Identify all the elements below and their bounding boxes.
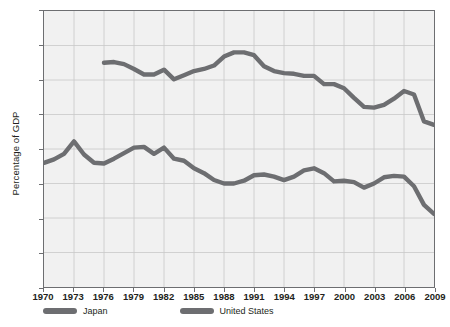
x-tick-mark	[375, 288, 376, 292]
chart-legend: Japan United States	[43, 306, 274, 316]
y-axis-title: Percentage of GDP	[10, 94, 21, 214]
gdp-line-chart: Percentage of GDP 0510152025303540 19701…	[0, 0, 450, 327]
x-tick-mark	[284, 288, 285, 292]
x-tick-mark	[435, 288, 436, 292]
legend-label-japan: Japan	[83, 306, 108, 316]
series-line-japan	[44, 141, 434, 213]
x-tick-mark	[254, 288, 255, 292]
x-tick-mark	[164, 288, 165, 292]
x-tick-mark	[314, 288, 315, 292]
x-tick-mark	[405, 288, 406, 292]
x-tick-mark	[345, 288, 346, 292]
plot-svg	[44, 11, 434, 287]
series-lines	[44, 52, 434, 213]
series-line-united-states	[104, 52, 434, 124]
legend-label-united-states: United States	[220, 306, 274, 316]
x-tick-label: 2009	[412, 292, 450, 302]
legend-swatch-united-states	[180, 308, 214, 314]
legend-item-japan: Japan	[43, 306, 108, 316]
plot-area	[43, 10, 435, 288]
legend-item-united-states: United States	[180, 306, 274, 316]
x-tick-mark	[194, 288, 195, 292]
x-tick-mark	[133, 288, 134, 292]
x-tick-mark	[43, 288, 44, 292]
x-tick-mark	[73, 288, 74, 292]
x-tick-mark	[103, 288, 104, 292]
x-tick-mark	[224, 288, 225, 292]
legend-swatch-japan	[43, 308, 77, 314]
